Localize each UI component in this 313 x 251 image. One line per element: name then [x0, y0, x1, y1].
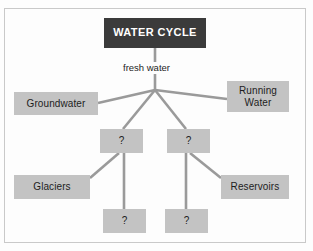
- edge-hub-to-running: [155, 90, 227, 99]
- edge-mid-left-to-glaciers: [90, 153, 119, 178]
- node-glaciers-label: Glaciers: [33, 181, 70, 193]
- node-unknown-mid-right-label: ?: [186, 135, 192, 147]
- edge-label-fresh-water: fresh water: [121, 62, 172, 73]
- node-unknown-low-right-label: ?: [184, 215, 190, 227]
- node-unknown-mid-right[interactable]: ?: [167, 129, 210, 153]
- node-water-cycle[interactable]: WATER CYCLE: [104, 18, 206, 48]
- node-running-water-label-line1: Running: [239, 85, 277, 97]
- node-running-water[interactable]: Running Water: [227, 81, 289, 112]
- node-reservoirs[interactable]: Reservoirs: [221, 175, 289, 199]
- edge-mid-right-to-reservoirs: [190, 153, 221, 178]
- node-unknown-mid-left[interactable]: ?: [100, 129, 143, 153]
- diagram-screenshot: WATER CYCLE fresh water Groundwater Runn…: [0, 0, 313, 251]
- node-unknown-low-left-label: ?: [122, 215, 128, 227]
- node-glaciers[interactable]: Glaciers: [14, 175, 90, 199]
- node-unknown-mid-left-label: ?: [119, 135, 125, 147]
- edge-label-fresh-water-text: fresh water: [123, 62, 170, 73]
- node-reservoirs-label: Reservoirs: [231, 181, 280, 193]
- node-unknown-low-right[interactable]: ?: [165, 209, 208, 233]
- node-unknown-low-left[interactable]: ?: [103, 209, 146, 233]
- edge-hub-to-mid-right: [155, 90, 186, 129]
- node-water-cycle-label: WATER CYCLE: [113, 27, 197, 39]
- node-groundwater-label: Groundwater: [27, 98, 86, 110]
- node-running-water-label-line2: Water: [245, 97, 272, 109]
- node-groundwater[interactable]: Groundwater: [14, 92, 98, 115]
